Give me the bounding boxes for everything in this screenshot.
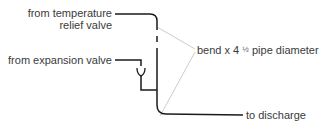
diagram-canvas: from temperature relief valve from expan… [0, 0, 336, 131]
label-bend-prefix: bend x 4 [197, 44, 239, 56]
leader-line-top [157, 27, 195, 49]
label-discharge: to discharge [246, 109, 306, 121]
label-bend-suffix: pipe diameter [252, 44, 319, 56]
label-expansion-valve: from expansion valve [8, 54, 112, 66]
pipe-main-discharge [157, 48, 243, 115]
pipe-tundish-to-main [141, 76, 157, 90]
pipe-expansion [115, 60, 141, 66]
leader-line-bottom [160, 52, 195, 116]
label-bend-fraction: ½ [242, 45, 249, 54]
label-bend: bend x 4 ½ pipe diameter [197, 44, 319, 56]
pipe-temp-relief [115, 14, 157, 30]
tundish-icon [137, 68, 145, 76]
label-temp-relief-line1: from temperature [28, 7, 112, 19]
label-temp-relief-line2: relief valve [59, 19, 112, 31]
